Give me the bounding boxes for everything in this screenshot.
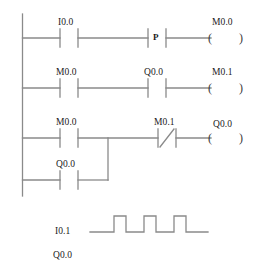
- rung-1-coil-label: M0.0: [212, 17, 233, 27]
- rung-2-coil-paren-close: ): [239, 81, 243, 96]
- rung-2-contact-2-label: Q0.0: [144, 67, 163, 77]
- timing-waveform-i01: [90, 216, 208, 232]
- rung-3-contact-2-slash: [160, 129, 174, 147]
- rung-3-coil-paren-close: ): [239, 131, 243, 146]
- rung-3-coil-label: Q0.0: [213, 119, 232, 129]
- rung-1-coil-paren-close: ): [239, 31, 243, 46]
- rung-1-coil-paren-open: (: [208, 31, 212, 46]
- ladder-logic-diagram: I0.0 P M0.0 ( ) M0.0 Q0.0 M0.1 ( ) M0.0 …: [0, 0, 272, 273]
- rung-1-positive-edge-label: P: [153, 32, 159, 42]
- rung-3-contact-2-label: M0.1: [154, 117, 175, 127]
- ladder-diagram-canvas: [0, 0, 272, 273]
- rung-2-contact-1-label: M0.0: [56, 67, 77, 77]
- rung-2-coil-label: M0.1: [212, 67, 233, 77]
- rung-3-contact-1-label: M0.0: [56, 117, 77, 127]
- timing-label-q00: Q0.0: [53, 250, 72, 260]
- timing-label-i01: I0.1: [55, 226, 70, 236]
- rung-1-contact-1-label: I0.0: [58, 17, 73, 27]
- rung-3-coil-paren-open: (: [208, 131, 212, 146]
- rung-4-contact-1-label: Q0.0: [56, 159, 75, 169]
- rung-2-coil-paren-open: (: [208, 81, 212, 96]
